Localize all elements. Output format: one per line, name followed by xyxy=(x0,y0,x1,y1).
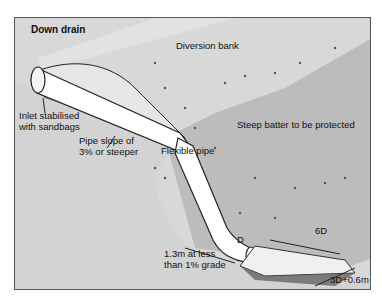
diagram-title: Down drain xyxy=(31,24,85,35)
label-pipe-diameter: D xyxy=(237,234,244,245)
label-steep-batter: Steep batter to be protected xyxy=(237,119,355,130)
down-drain-diagram: Down drain Diversion bank Inlet stabilis… xyxy=(14,17,371,290)
label-pipe-slope-line2: 3% or steeper xyxy=(79,146,138,157)
label-outlet-length-line2: than 1% grade xyxy=(164,259,226,270)
inlet-opening xyxy=(31,67,45,93)
label-inlet-line1: Inlet stabilised xyxy=(19,110,79,121)
label-apron-width: 3D+0.6m xyxy=(330,274,369,285)
label-outlet-length-line1: 1.3m at less xyxy=(164,248,215,259)
label-flexible-pipe: Flexible pipe xyxy=(161,145,214,156)
label-diversion-bank: Diversion bank xyxy=(176,40,239,51)
label-inlet-line2: with sandbags xyxy=(19,121,80,132)
label-pipe-slope-line1: Pipe slope of xyxy=(79,135,134,146)
label-apron-length: 6D xyxy=(315,225,327,236)
